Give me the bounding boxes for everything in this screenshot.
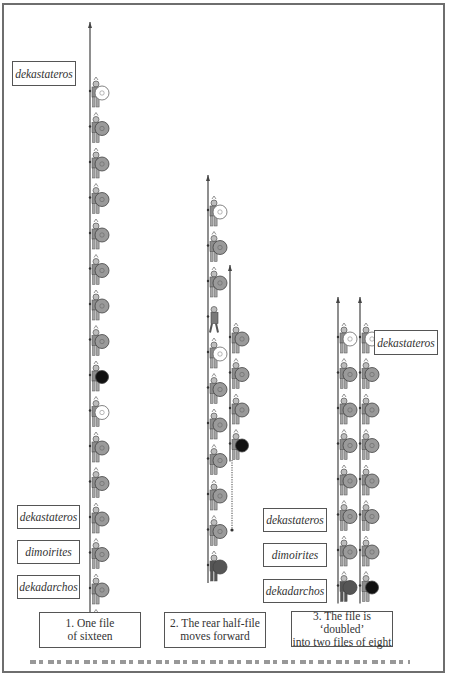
soldier-grey-shield <box>207 480 227 510</box>
label-dimoirites-col3: dimoirites <box>263 543 327 567</box>
soldier-grey-shield <box>337 536 357 566</box>
soldier-grey-shield <box>89 184 109 214</box>
soldier-grey-shield <box>207 445 227 475</box>
soldier-file-step2-front-half <box>206 175 227 583</box>
soldier-grey-shield <box>89 503 109 533</box>
caption-step-2-line-2: moves forward <box>180 630 249 643</box>
soldier-dark-shield <box>337 572 357 602</box>
label-dekastateros-top-col3: dekastateros <box>374 330 438 355</box>
soldier-grey-shield <box>337 465 357 495</box>
soldier-white-shield <box>89 397 109 427</box>
caption-step-3-line-2: into two files of eight <box>292 636 391 649</box>
soldier-black-shield <box>89 361 109 391</box>
label-dekadarchos-col3: dekadarchos <box>263 579 327 603</box>
soldier-grey-shield <box>337 394 357 424</box>
soldier-file-step3-file-a <box>336 297 357 604</box>
soldier-grey-shield <box>89 432 109 462</box>
soldier-grey-shield <box>359 501 379 531</box>
soldier-grey-shield <box>359 430 379 460</box>
soldier-white-shield <box>89 77 109 107</box>
caption-step-3: 3. The file is ‘doubled’ into two files … <box>291 611 393 647</box>
soldier-grey-shield <box>89 574 109 604</box>
label-dekadarchos-col1: dekadarchos <box>17 575 80 599</box>
soldier-dark-shield <box>207 551 227 581</box>
soldier-grey-shield <box>89 290 109 320</box>
soldier-black-shield <box>359 572 379 602</box>
soldier-grey-shield <box>89 219 109 249</box>
soldier-grey-shield <box>89 539 109 569</box>
soldier-grey-shield <box>89 255 109 285</box>
label-dekastateros-col1: dekastateros <box>17 505 80 529</box>
soldier-grey-shield <box>359 359 379 389</box>
soldier-file-step1-single-file <box>88 22 109 642</box>
caption-step-3-line-1: 3. The file is ‘doubled’ <box>292 610 392 636</box>
soldier-grey-shield <box>359 465 379 495</box>
caption-step-1-line-2: of sixteen <box>67 630 112 643</box>
soldier-grey-shield <box>89 468 109 498</box>
soldier-grey-shield <box>207 232 227 262</box>
figure-caption-cropped <box>30 657 410 664</box>
caption-step-1-line-1: 1. One file <box>66 617 115 630</box>
arrow-end-dot <box>230 528 233 531</box>
label-dekastateros-top-col1: dekastateros <box>12 61 76 86</box>
soldier-grey-shield <box>337 359 357 389</box>
soldier-grey-shield <box>89 148 109 178</box>
soldier-grey-shield <box>89 113 109 143</box>
soldier-grey-shield <box>337 430 357 460</box>
soldier-grey-shield <box>207 409 227 439</box>
soldier-grey-shield <box>89 326 109 356</box>
soldier-file-step2-rear-half-moving <box>228 265 249 532</box>
soldier-grey-shield <box>337 501 357 531</box>
soldier-black-shield <box>229 430 249 460</box>
soldier-grey-shield <box>359 536 379 566</box>
caption-step-2: 2. The rear half-file moves forward <box>164 612 266 648</box>
soldier-grey-shield <box>207 267 227 297</box>
soldier-white-shield <box>207 338 227 368</box>
figure-caption-cropped-text <box>30 660 410 664</box>
soldier-white-shield <box>207 196 227 226</box>
soldier-grey-shield <box>207 516 227 546</box>
soldier-grey-shield <box>229 359 249 389</box>
soldier-grey-shield <box>229 323 249 353</box>
label-dimoirites-col1: dimoirites <box>17 540 80 564</box>
soldier-grey-shield <box>229 394 249 424</box>
soldier-grey-shield <box>359 394 379 424</box>
caption-step-2-line-1: 2. The rear half-file <box>170 617 260 630</box>
soldier-grey-shield <box>207 374 227 404</box>
caption-step-1: 1. One file of sixteen <box>39 612 141 648</box>
label-dekastateros-col3: dekastateros <box>263 508 327 532</box>
soldier-white-shield <box>337 323 357 353</box>
